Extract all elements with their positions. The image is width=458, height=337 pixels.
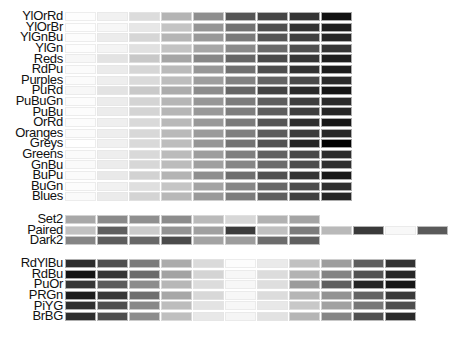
- color-swatch: [129, 192, 160, 201]
- palette-row-purd: PuRd: [0, 85, 458, 96]
- color-swatch: [161, 54, 192, 63]
- color-swatch: [225, 23, 256, 32]
- color-swatch: [385, 301, 416, 310]
- palette-swatches: [65, 12, 353, 21]
- palette-row-brbg: BrBG: [0, 311, 458, 322]
- color-swatch: [161, 118, 192, 127]
- color-swatch: [257, 259, 288, 268]
- color-swatch: [257, 192, 288, 201]
- color-swatch: [257, 118, 288, 127]
- color-swatch: [289, 150, 320, 159]
- color-swatch: [321, 107, 352, 116]
- color-swatch: [289, 76, 320, 85]
- color-swatch: [161, 44, 192, 53]
- color-swatch: [321, 86, 352, 95]
- color-swatch: [257, 97, 288, 106]
- color-swatch: [225, 54, 256, 63]
- color-swatch: [257, 226, 288, 235]
- color-swatch: [321, 129, 352, 138]
- color-swatch: [289, 86, 320, 95]
- palette-swatches: [65, 54, 353, 63]
- color-swatch: [257, 86, 288, 95]
- color-swatch: [321, 12, 352, 21]
- color-swatch: [225, 150, 256, 159]
- color-swatch: [321, 150, 352, 159]
- color-swatch: [225, 160, 256, 169]
- color-swatch: [257, 139, 288, 148]
- color-swatch: [97, 301, 128, 310]
- color-swatch: [257, 54, 288, 63]
- color-swatch: [321, 139, 352, 148]
- color-swatch: [161, 160, 192, 169]
- palette-swatches: [65, 118, 353, 127]
- color-swatch: [65, 97, 96, 106]
- color-swatch: [321, 301, 352, 310]
- palette-swatches: [65, 76, 353, 85]
- color-swatch: [97, 259, 128, 268]
- color-swatch: [193, 97, 224, 106]
- color-swatch: [353, 226, 384, 235]
- palette-swatches: [65, 182, 353, 191]
- color-swatch: [97, 86, 128, 95]
- color-swatch: [289, 182, 320, 191]
- color-swatch: [161, 76, 192, 85]
- color-swatch: [161, 226, 192, 235]
- color-swatch: [289, 291, 320, 300]
- color-swatch: [193, 150, 224, 159]
- color-swatch: [225, 97, 256, 106]
- color-swatch: [65, 160, 96, 169]
- color-swatch: [225, 312, 256, 321]
- palette-row-orrd: OrRd: [0, 117, 458, 128]
- palette-row-reds: Reds: [0, 54, 458, 65]
- color-swatch: [193, 215, 224, 224]
- color-swatch: [225, 129, 256, 138]
- color-swatch: [129, 301, 160, 310]
- color-swatch: [129, 171, 160, 180]
- color-swatch: [161, 23, 192, 32]
- palette-swatches: [65, 280, 417, 289]
- color-swatch: [161, 236, 192, 245]
- palette-swatches: [65, 129, 353, 138]
- color-swatch: [193, 171, 224, 180]
- color-swatch: [65, 33, 96, 42]
- palette-row-dark2: Dark2: [0, 235, 458, 246]
- color-swatch: [193, 192, 224, 201]
- color-swatch: [129, 129, 160, 138]
- palette-row-bupu: BuPu: [0, 170, 458, 181]
- color-swatch: [289, 259, 320, 268]
- color-swatch: [161, 270, 192, 279]
- color-swatch: [193, 33, 224, 42]
- color-swatch: [193, 312, 224, 321]
- palette-swatches: [65, 23, 353, 32]
- palette-swatches: [65, 33, 353, 42]
- palette-swatches: [65, 270, 417, 279]
- color-swatch: [193, 54, 224, 63]
- color-swatch: [65, 129, 96, 138]
- palette-swatches: [65, 171, 353, 180]
- color-swatch: [321, 226, 352, 235]
- color-swatch: [289, 139, 320, 148]
- color-swatch: [385, 270, 416, 279]
- color-swatch: [129, 44, 160, 53]
- color-swatch: [257, 312, 288, 321]
- color-swatch: [289, 97, 320, 106]
- color-swatch: [65, 270, 96, 279]
- color-swatch: [321, 76, 352, 85]
- color-swatch: [65, 259, 96, 268]
- color-swatch: [65, 226, 96, 235]
- palette-row-pubu: PuBu: [0, 107, 458, 118]
- color-swatch: [65, 312, 96, 321]
- color-swatch: [193, 65, 224, 74]
- color-swatch: [257, 215, 288, 224]
- color-swatch: [161, 97, 192, 106]
- color-swatch: [193, 226, 224, 235]
- palette-row-oranges: Oranges: [0, 128, 458, 139]
- color-swatch: [225, 86, 256, 95]
- color-swatch: [353, 301, 384, 310]
- color-swatch: [129, 160, 160, 169]
- color-swatch: [129, 65, 160, 74]
- color-swatch: [225, 44, 256, 53]
- color-swatch: [257, 129, 288, 138]
- color-swatch: [97, 107, 128, 116]
- color-swatch: [321, 160, 352, 169]
